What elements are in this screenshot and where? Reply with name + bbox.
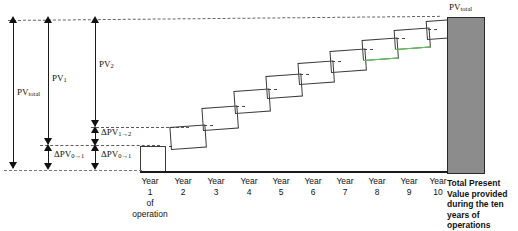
pv-total-left-label: PVtotal: [17, 88, 40, 98]
dpv01-left-label-sub: 0→1: [71, 152, 84, 159]
total-present-value-bar: [447, 17, 485, 174]
dpv01-right-arrow-head-top: [91, 144, 99, 151]
pv-total-arrow-head-bottom: [9, 162, 17, 169]
dpv12-label: ΔPV1→2: [101, 128, 131, 138]
dpv01-left-label-text: ΔPV: [54, 149, 71, 159]
dpv12-label-text: ΔPV: [101, 127, 118, 137]
dpv01-right-arrow-head-bottom: [91, 163, 99, 170]
pv-total-arrow-shaft: [13, 22, 14, 168]
dpv01-right-label: ΔPV0→1: [101, 150, 131, 160]
pv-total-left-label-sub: total: [29, 90, 41, 97]
top-envelope-dashed-line: [8, 16, 440, 21]
present-value-diagram: PVtotal PV1 PV2 ΔPV1→2 ΔPV0→1 ΔPV0→1: [0, 0, 518, 231]
dpv12-arrow-head-top: [91, 126, 99, 133]
pv2-label-text: PV: [99, 59, 111, 69]
pv-box-year-1: [140, 146, 166, 172]
pv2-label-sub: 2: [111, 62, 114, 69]
pv-box-year-2: [169, 125, 207, 150]
axis-label-year-1-line3: of: [128, 198, 172, 209]
pv-total-bar-label: PVtotal: [449, 3, 472, 13]
pv-box-year-7: [329, 49, 366, 73]
pv2-arrow-shaft: [95, 22, 96, 126]
pv1-label: PV1: [52, 74, 67, 84]
pv-total-left-label-text: PV: [17, 87, 29, 97]
total-present-value-caption: Total Present Value provided during the …: [447, 178, 517, 231]
dpv01-right-label-sub: 0→1: [118, 152, 131, 159]
dpv01-left-arrow-head-top: [44, 144, 52, 151]
pv-total-bar-label-sub: total: [461, 5, 473, 12]
axis-label-year-1-line4: operation: [120, 209, 180, 220]
horizontal-axis: [140, 171, 448, 173]
dpv01-left-label: ΔPV0→1: [54, 150, 84, 160]
pv2-label: PV2: [99, 60, 114, 70]
pv-box-year-9: [394, 28, 431, 50]
pv-box-year-3: [201, 106, 239, 131]
dpv01-right-label-text: ΔPV: [101, 149, 118, 159]
pv-box-year-5: [265, 74, 303, 99]
baseline-dashed-extension: [4, 170, 142, 171]
pv-total-arrow-head-top: [9, 16, 17, 23]
pv-box-year-6: [297, 61, 334, 85]
pv-total-bar-label-text: PV: [449, 2, 461, 12]
pv1-arrow-head-top: [44, 16, 52, 23]
pv1-label-sub: 1: [64, 76, 67, 83]
pv1-label-text: PV: [52, 73, 64, 83]
dpv01-left-arrow-head-bottom: [44, 163, 52, 170]
dpv12-label-sub: 1→2: [118, 130, 131, 137]
pv-box-year-8: [362, 38, 399, 61]
pv1-arrow-shaft: [48, 22, 49, 144]
pv2-arrow-head-top: [91, 16, 99, 23]
pv-box-year-4: [233, 89, 271, 114]
